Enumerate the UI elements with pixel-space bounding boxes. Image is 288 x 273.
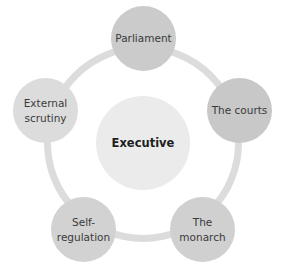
node-external-scrutiny: External scrutiny [13, 78, 78, 143]
executive-checks-diagram: Executive Parliament The courts The mona… [0, 0, 288, 273]
node-parliament: Parliament [111, 6, 176, 71]
node-label: Self- regulation [57, 215, 110, 245]
node-the-courts: The courts [207, 78, 272, 143]
node-self-regulation: Self- regulation [51, 197, 116, 262]
node-the-monarch: The monarch [170, 197, 235, 262]
center-node-executive: Executive [96, 96, 190, 190]
node-label: Parliament [115, 31, 171, 46]
node-label: The courts [212, 103, 268, 118]
center-label: Executive [112, 136, 175, 151]
node-label: The monarch [179, 215, 225, 245]
node-label: External scrutiny [24, 96, 68, 126]
